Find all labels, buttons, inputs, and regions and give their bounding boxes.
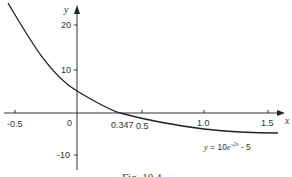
curve-equation-label: y = 10e-2x - 5 [203,141,251,152]
x-tick-label: 1.0 [197,118,210,128]
y-tick-label: 10 [61,65,71,75]
x-tick-label: 1.5 [261,118,274,128]
x-intercept-label: 0.347 [111,120,134,130]
y-axis-label: y [63,4,69,15]
x-tick-label: -0.5 [7,119,23,129]
chart: -0.5 0 0.5 1.0 1.5 0.347 20 10 -10 y x y… [0,0,292,177]
x-axis-label: x [284,115,290,126]
x-axis-arrow-icon [277,110,285,116]
x-tick-label: 0.5 [136,121,149,131]
y-tick-label: -10 [57,150,70,160]
y-axis-arrow-icon [74,5,80,14]
figure-caption: Fig. 10.4 [122,171,162,177]
y-tick-label: 20 [61,20,71,30]
x-tick-label: 0 [67,118,72,128]
